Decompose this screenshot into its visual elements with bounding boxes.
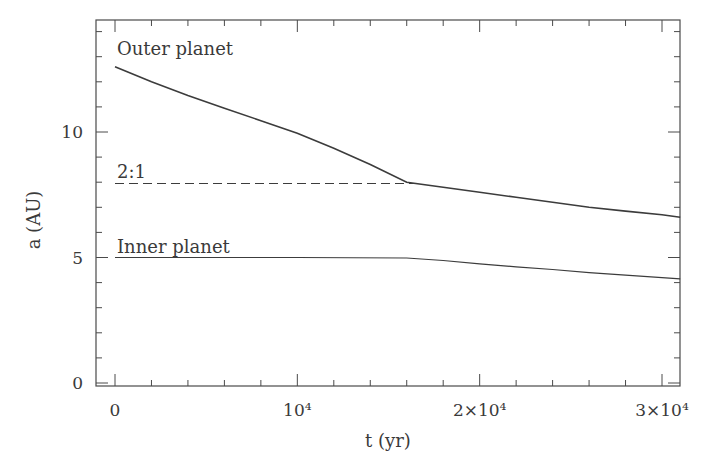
x-tick-label: 2×10⁴ — [453, 400, 507, 420]
y-tick-label: 0 — [72, 373, 83, 393]
y-tick-label: 10 — [61, 122, 83, 142]
annotation-label: 2:1 — [117, 161, 146, 182]
series-outer-planet — [115, 67, 680, 218]
annotation-label: Inner planet — [117, 236, 231, 257]
chart: 010⁴2×10⁴3×10⁴0510t (yr)a (AU)Outer plan… — [0, 0, 713, 471]
y-axis-label: a (AU) — [23, 191, 44, 250]
annotation-label: Outer planet — [117, 38, 234, 59]
x-axis-label: t (yr) — [365, 430, 411, 451]
x-tick-label: 0 — [110, 400, 121, 420]
series-inner-planet — [115, 258, 680, 279]
x-tick-label: 3×10⁴ — [635, 400, 689, 420]
y-tick-label: 5 — [72, 248, 83, 268]
x-tick-label: 10⁴ — [283, 400, 312, 420]
plot-area: 010⁴2×10⁴3×10⁴0510t (yr)a (AU)Outer plan… — [23, 20, 689, 451]
plot-frame — [96, 20, 680, 386]
